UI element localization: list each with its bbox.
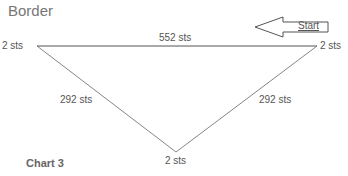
left-edge — [37, 46, 176, 152]
top-right-vertex-label: 2 sts — [320, 40, 341, 51]
border-triangle-diagram — [0, 0, 348, 176]
top-left-vertex-label: 2 sts — [2, 40, 23, 51]
right-edge — [176, 46, 317, 152]
right-edge-label: 292 sts — [259, 94, 291, 105]
left-edge-label: 292 sts — [60, 94, 92, 105]
top-edge-label: 552 sts — [159, 32, 191, 43]
bottom-vertex-label: 2 sts — [165, 155, 186, 166]
chart-caption: Chart 3 — [26, 157, 64, 169]
start-label: Start — [298, 20, 319, 31]
